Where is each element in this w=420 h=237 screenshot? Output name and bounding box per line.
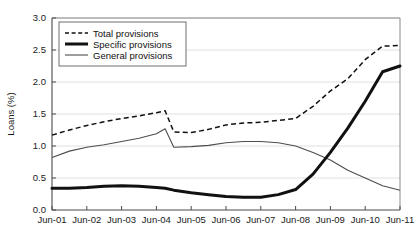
y-axis-label: Loans (%) — [5, 92, 16, 135]
y-tick-label: 0.5 — [33, 172, 46, 183]
x-tick-label: Jun-10 — [351, 214, 380, 225]
x-tick-label: Jun-04 — [142, 214, 171, 225]
legend-label-general: General provisions — [93, 50, 172, 61]
y-tick-label: 2.5 — [33, 44, 46, 55]
x-tick-label: Jun-05 — [177, 214, 206, 225]
x-tick-label: Jun-11 — [386, 214, 414, 225]
chart-legend: Total provisions Specific provisions Gen… — [59, 22, 186, 66]
x-tick-label: Jun-01 — [37, 214, 66, 225]
loans-provisions-line-chart: 0.00.51.01.52.02.53.0 Jun-01Jun-02Jun-03… — [0, 0, 420, 237]
y-tick-label: 3.0 — [33, 12, 46, 23]
y-tick-label: 2.0 — [33, 76, 46, 87]
y-tick-label: 1.5 — [33, 108, 46, 119]
legend-label-total: Total provisions — [93, 28, 159, 39]
x-tick-label: Jun-02 — [72, 214, 101, 225]
x-tick-label: Jun-03 — [107, 214, 136, 225]
x-tick-label: Jun-09 — [316, 214, 345, 225]
x-tick-label: Jun-08 — [281, 214, 310, 225]
x-tick-labels: Jun-01Jun-02Jun-03Jun-04Jun-05Jun-06Jun-… — [37, 214, 414, 225]
x-tick-label: Jun-06 — [211, 214, 240, 225]
y-tick-label: 1.0 — [33, 140, 46, 151]
legend-label-specific: Specific provisions — [93, 39, 172, 50]
chart-container: 0.00.51.01.52.02.53.0 Jun-01Jun-02Jun-03… — [0, 0, 420, 237]
x-tick-label: Jun-07 — [246, 214, 275, 225]
